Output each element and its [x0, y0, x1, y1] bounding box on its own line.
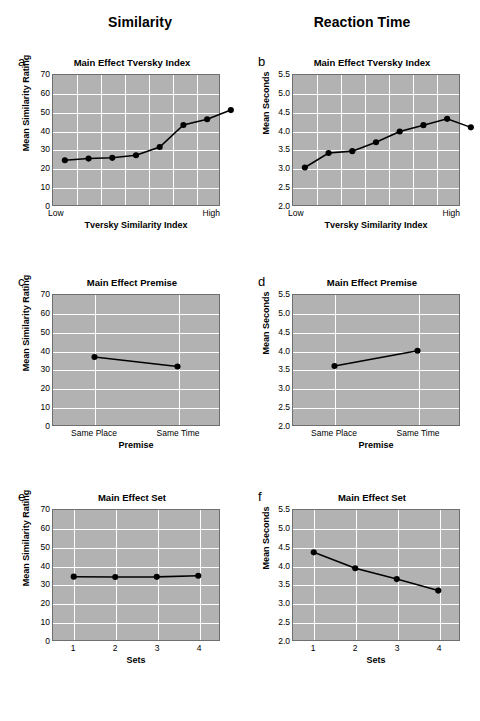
data-point — [311, 549, 317, 555]
y-axis-label-wrap-c: Mean Similarity Rating — [0, 294, 14, 426]
series-line — [335, 351, 418, 366]
series-line — [305, 119, 471, 168]
panel-title-a: Main Effect Tversky Index — [34, 57, 230, 68]
data-point — [204, 116, 210, 122]
data-point — [195, 573, 201, 579]
x-tick-label: 1 — [71, 643, 76, 653]
x-tick-label: Same Place — [71, 428, 117, 438]
panel-e: eMain Effect Set010203040506070Mean Simi… — [0, 487, 240, 702]
y-tick-label: 2.0 — [260, 422, 290, 431]
data-point — [133, 152, 139, 158]
x-axis-label-e: Sets — [52, 655, 220, 665]
data-point — [394, 576, 400, 582]
y-axis-label-b: Mean Seconds — [261, 37, 275, 169]
x-tick-label: 1 — [311, 643, 316, 653]
y-tick-label: 2.0 — [260, 202, 290, 211]
data-point — [352, 565, 358, 571]
panel-title-c: Main Effect Premise — [34, 277, 230, 288]
x-axis-label-d: Premise — [292, 440, 460, 450]
x-axis-label-c: Premise — [52, 440, 220, 450]
data-point — [414, 348, 420, 354]
series-f — [293, 510, 459, 640]
data-point — [302, 164, 308, 170]
y-tick-label: 2.5 — [260, 618, 290, 627]
data-point — [180, 122, 186, 128]
column-header-similarity: Similarity — [40, 14, 240, 30]
data-point — [154, 574, 160, 580]
y-axis-label-wrap-f: Mean Seconds — [240, 509, 254, 641]
series-line — [74, 576, 199, 577]
y-tick-label: 2.5 — [260, 183, 290, 192]
data-point — [91, 354, 97, 360]
x-tick-label: Same Time — [397, 428, 440, 438]
data-point — [71, 574, 77, 580]
figure-panel-grid: Similarity Reaction Time aMain Effect Tv… — [0, 0, 480, 721]
data-point — [157, 144, 163, 150]
y-axis-label-f: Mean Seconds — [261, 472, 275, 604]
y-tick-label: 0 — [20, 202, 50, 211]
plot-area-a — [52, 74, 220, 206]
y-axis-label-d: Mean Seconds — [261, 257, 275, 389]
x-tick-label: High — [443, 208, 460, 218]
x-tick-label: 3 — [395, 643, 400, 653]
y-axis-label-e: Mean Similarity Rating — [21, 472, 35, 604]
y-axis-label-wrap-e: Mean Similarity Rating — [0, 509, 14, 641]
y-tick-label: 10 — [20, 183, 50, 192]
data-point — [444, 116, 450, 122]
data-point — [420, 122, 426, 128]
plot-area-e — [52, 509, 220, 641]
series-e — [53, 510, 219, 640]
y-axis-label-a: Mean Similarity Rating — [21, 37, 35, 169]
x-tick-label: 2 — [353, 643, 358, 653]
y-tick-label: 2.0 — [260, 637, 290, 646]
x-tick-label: Low — [288, 208, 304, 218]
data-point — [109, 155, 115, 161]
plot-area-c — [52, 294, 220, 426]
column-headers: Similarity Reaction Time — [0, 14, 480, 40]
x-axis-label-f: Sets — [292, 655, 460, 665]
x-axis-label-a: Tversky Similarity Index — [32, 220, 240, 230]
data-point — [373, 139, 379, 145]
x-tick-label: 3 — [155, 643, 160, 653]
panel-c: cMain Effect Premise010203040506070Mean … — [0, 272, 240, 487]
panel-title-d: Main Effect Premise — [274, 277, 470, 288]
series-line — [95, 357, 178, 366]
data-point — [228, 107, 234, 113]
panel-f: fMain Effect Set2.02.53.03.54.04.55.05.5… — [240, 487, 480, 702]
y-tick-label: 10 — [20, 403, 50, 412]
panel-a: aMain Effect Tversky Index01020304050607… — [0, 52, 240, 267]
y-tick-label: 10 — [20, 618, 50, 627]
panel-d: dMain Effect Premise2.02.53.03.54.04.55.… — [240, 272, 480, 487]
x-axis-label-b: Tversky Similarity Index — [272, 220, 480, 230]
x-tick-label: 4 — [197, 643, 202, 653]
plot-area-d — [292, 294, 460, 426]
x-tick-label: Same Place — [311, 428, 357, 438]
series-b — [293, 75, 459, 205]
panel-title-f: Main Effect Set — [274, 492, 470, 503]
data-point — [62, 157, 68, 163]
plot-area-b — [292, 74, 460, 206]
y-axis-label-wrap-b: Mean Seconds — [240, 74, 254, 206]
data-point — [397, 128, 403, 134]
x-tick-label: 2 — [113, 643, 118, 653]
data-point — [86, 156, 92, 162]
series-line — [314, 552, 439, 590]
data-point — [468, 124, 474, 130]
column-header-reaction-time: Reaction Time — [262, 14, 462, 30]
plot-area-f — [292, 509, 460, 641]
data-point — [326, 150, 332, 156]
series-d — [293, 295, 459, 425]
series-c — [53, 295, 219, 425]
x-tick-label: 4 — [437, 643, 442, 653]
y-axis-label-wrap-a: Mean Similarity Rating — [0, 74, 14, 206]
data-point — [349, 148, 355, 154]
data-point — [331, 363, 337, 369]
x-tick-label: High — [203, 208, 220, 218]
x-tick-label: Low — [48, 208, 64, 218]
data-point — [112, 574, 118, 580]
y-tick-label: 0 — [20, 637, 50, 646]
x-tick-label: Same Time — [157, 428, 200, 438]
panel-title-e: Main Effect Set — [34, 492, 230, 503]
y-tick-label: 0 — [20, 422, 50, 431]
y-axis-label-wrap-d: Mean Seconds — [240, 294, 254, 426]
